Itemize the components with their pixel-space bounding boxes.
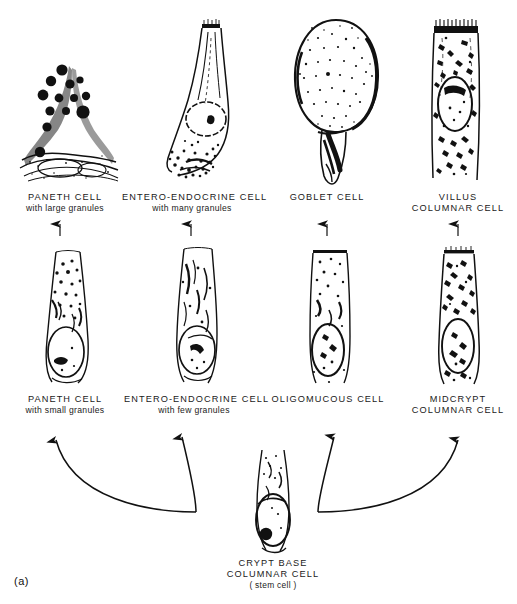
arrow-stem-to-entero-few (182, 437, 196, 512)
label-line-3: ( stem cell ) (208, 580, 338, 591)
goblet-cell-icon (288, 14, 384, 186)
paneth-cell-small-granules-icon (38, 248, 98, 386)
label-line-1: ENTERO-ENDOCRINE CELL (122, 192, 262, 203)
label-crypt-base-columnar-cell: CRYPT BASE COLUMNAR CELL ( stem cell ) (208, 558, 338, 591)
oligomucous-cell-icon (298, 246, 360, 386)
paneth-cell-large-granules-icon (14, 48, 126, 183)
arrow-stem-to-paneth-small (56, 440, 196, 512)
label-line-1: PANETH CELL (2, 394, 128, 405)
label-line-2: with large granules (0, 203, 130, 214)
label-line-2: with small granules (2, 405, 128, 416)
label-line-1: GOBLET CELL (267, 192, 387, 203)
figure-canvas: PANETH CELL with large granules ENTERO-E… (0, 0, 517, 604)
label-line-1: PANETH CELL (0, 192, 130, 203)
label-line-1: ENTERO-ENDOCRINE CELL (124, 394, 264, 405)
label-line-1: MIDCRYPT (398, 394, 517, 405)
label-line-2: with many granules (122, 203, 262, 214)
label-line-2: COLUMNAR CELL (208, 569, 338, 580)
label-line-2: COLUMNAR CELL (398, 405, 517, 416)
label-entero-endocrine-cell-many-granules: ENTERO-ENDOCRINE CELL with many granules (122, 192, 262, 214)
panel-letter: (a) (14, 575, 29, 587)
arrow-stem-to-midcrypt (318, 440, 458, 512)
label-paneth-cell-small-granules: PANETH CELL with small granules (2, 394, 128, 416)
entero-endocrine-cell-few-granules-icon (166, 246, 228, 386)
label-line-2: COLUMNAR CELL (398, 203, 517, 214)
label-line-1: OLIGOMUCOUS CELL (264, 394, 392, 405)
villus-columnar-cell-icon (420, 16, 492, 184)
entero-endocrine-cell-many-granules-icon (158, 18, 244, 183)
label-paneth-cell-large-granules: PANETH CELL with large granules (0, 192, 130, 214)
label-line-1: VILLUS (398, 192, 517, 203)
label-entero-endocrine-cell-few-granules: ENTERO-ENDOCRINE CELL with few granules (124, 394, 264, 416)
arrow-stem-to-oligomucous (318, 437, 334, 512)
label-oligomucous-cell: OLIGOMUCOUS CELL (264, 394, 392, 405)
label-midcrypt-columnar-cell: MIDCRYPT COLUMNAR CELL (398, 394, 517, 416)
label-goblet-cell: GOBLET CELL (267, 192, 387, 203)
label-villus-columnar-cell: VILLUS COLUMNAR CELL (398, 192, 517, 214)
label-line-1: CRYPT BASE (208, 558, 338, 569)
label-line-2: with few granules (124, 405, 264, 416)
midcrypt-columnar-cell-icon (428, 246, 490, 386)
crypt-base-columnar-stem-cell-icon (248, 448, 298, 556)
